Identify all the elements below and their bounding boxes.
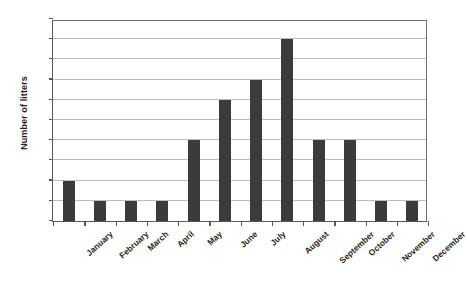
bar (313, 140, 325, 221)
x-axis-tick-label: August (303, 229, 331, 256)
bar (63, 181, 75, 221)
bar (375, 201, 387, 221)
bar-group (334, 21, 365, 221)
x-axis-tick-mark (303, 221, 304, 226)
x-axis-tick-mark (428, 221, 429, 226)
x-axis-tick-mark (84, 221, 85, 226)
bar (188, 140, 200, 221)
x-axis-tick-label: November (399, 229, 436, 264)
bar (94, 201, 106, 221)
x-axis-tick-label: April (175, 229, 196, 249)
bar-group (53, 21, 84, 221)
x-axis-tick-mark (116, 221, 117, 226)
x-axis-tick-mark (241, 221, 242, 226)
x-axis-tick-mark (334, 221, 335, 226)
y-axis-tick-mark (49, 38, 53, 39)
x-axis-tick-label: January (85, 229, 116, 258)
y-axis-tick-mark (49, 220, 53, 221)
x-axis-tick-mark (178, 221, 179, 226)
y-axis-tick-mark (49, 159, 53, 160)
x-axis-tick-label: July (268, 229, 287, 248)
plot-area (52, 20, 427, 222)
y-axis-tick-mark (49, 58, 53, 59)
y-axis-tick-mark (49, 139, 53, 140)
y-axis-tick-mark (49, 99, 53, 100)
bar-group (178, 21, 209, 221)
bar-group (272, 21, 303, 221)
bar (406, 201, 418, 221)
bar (219, 100, 231, 221)
x-axis-tick-mark (147, 221, 148, 226)
x-axis-tick-label: May (206, 229, 225, 247)
bar-group (116, 21, 147, 221)
bar (156, 201, 168, 221)
bar-group (147, 21, 178, 221)
x-axis-tick-label: June (238, 229, 259, 250)
bar-group (397, 21, 428, 221)
x-axis-tick-mark (397, 221, 398, 226)
bar (281, 39, 293, 221)
bar-series (53, 21, 426, 221)
bar (125, 201, 137, 221)
y-axis-tick-mark (49, 18, 53, 19)
bar-group (303, 21, 334, 221)
x-axis-tick-mark (272, 221, 273, 226)
bar-group (84, 21, 115, 221)
bar (250, 80, 262, 221)
bar (344, 140, 356, 221)
y-axis-tick-mark (49, 179, 53, 180)
x-axis-tick-label: March (145, 229, 170, 253)
y-axis-tick-mark (49, 78, 53, 79)
bar-group (209, 21, 240, 221)
bar-group (366, 21, 397, 221)
y-axis-title: Number of litters (19, 53, 29, 173)
y-axis-tick-mark (49, 119, 53, 120)
x-axis-tick-mark (209, 221, 210, 226)
bar-group (241, 21, 272, 221)
x-axis-tick-label: December (431, 229, 467, 264)
x-axis-tick-mark (53, 221, 54, 226)
x-axis-tick-mark (366, 221, 367, 226)
y-axis-tick-mark (49, 200, 53, 201)
